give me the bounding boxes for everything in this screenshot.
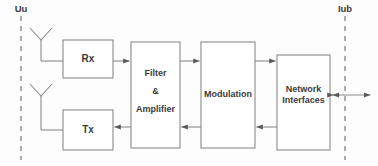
- box-filter-amplifier[interactable]: [131, 42, 180, 148]
- box-modulation[interactable]: [201, 42, 255, 148]
- receive-antenna: [30, 28, 52, 61]
- box-network-interfaces[interactable]: [277, 55, 330, 150]
- box-rx[interactable]: [63, 40, 113, 78]
- nodeb-block-diagram: [0, 0, 378, 166]
- box-tx[interactable]: [63, 110, 113, 150]
- transmit-antenna: [30, 84, 52, 130]
